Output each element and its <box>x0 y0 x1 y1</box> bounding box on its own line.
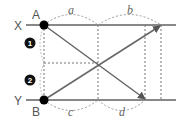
marker-1-label: 1 <box>28 39 33 48</box>
arrow-a-to-y <box>44 25 145 99</box>
marker-2-label: 2 <box>28 76 33 85</box>
diagram-canvas: X Y A B a b c d 1 2 <box>0 0 182 122</box>
label-segment-a: a <box>68 3 74 17</box>
point-b-dot <box>40 96 49 105</box>
brace-arc-2 <box>40 63 44 100</box>
label-segment-b: b <box>127 3 133 17</box>
label-x: X <box>14 19 22 33</box>
point-a-dot <box>40 21 49 30</box>
brace-arc-1 <box>40 25 44 63</box>
label-y: Y <box>14 94 22 108</box>
label-a: A <box>32 8 40 22</box>
label-b: B <box>32 105 40 119</box>
label-segment-c: c <box>68 105 74 119</box>
label-segment-d: d <box>119 105 126 119</box>
